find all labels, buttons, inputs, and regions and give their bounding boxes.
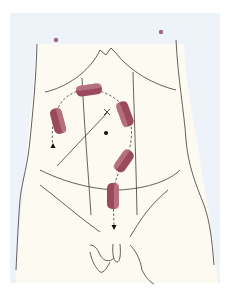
port-lower-center xyxy=(107,183,119,209)
umbilicus-dot xyxy=(104,131,108,135)
nipple-left xyxy=(54,38,58,42)
abdomen-port-placement-diagram xyxy=(0,0,228,296)
nipple-right xyxy=(159,30,163,34)
